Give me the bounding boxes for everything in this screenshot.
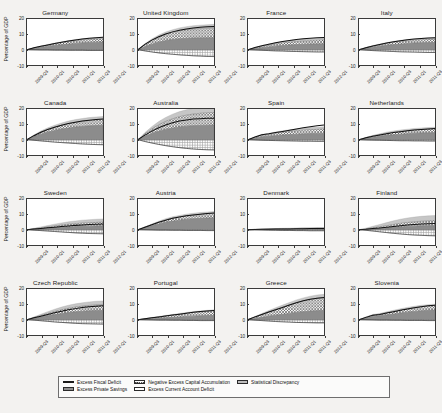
x-tick-mark	[358, 336, 359, 338]
y-tick-mark	[26, 320, 28, 321]
x-tick-mark	[373, 246, 374, 248]
y-tick-mark	[247, 18, 249, 19]
legend-label: Excess Private Savings	[77, 387, 127, 392]
x-tick-label: 2010-Q1	[270, 339, 285, 354]
x-tick-label: 2009-Q3	[144, 69, 159, 84]
legend-label: Statistical Discrepancy	[251, 380, 299, 385]
x-tick-mark	[373, 336, 374, 338]
x-tick-label: 2011-Q1	[412, 339, 427, 354]
x-tick-label: 2010-Q1	[381, 69, 396, 84]
y-tick-label: 10	[240, 32, 245, 37]
panel-title: Australia	[111, 99, 222, 106]
y-tick-mark	[26, 288, 28, 289]
x-tick-mark	[247, 66, 248, 68]
y-tick-label: -10	[349, 154, 356, 159]
x-tick-label: 2010-Q1	[160, 159, 175, 174]
y-tick-mark	[358, 320, 360, 321]
panel-sweden: SwedenPercentage of GDP 20100-102009-Q32…	[0, 188, 111, 278]
axes	[358, 288, 436, 336]
legend-item[interactable]: Statistical Discrepancy	[237, 380, 299, 385]
legend-item[interactable]: Excess Current Account Deficit	[134, 387, 230, 392]
x-tick-mark	[137, 336, 138, 338]
y-tick-mark	[247, 34, 249, 35]
y-tick-label: 20	[19, 106, 24, 111]
y-tick-mark	[358, 304, 360, 305]
y-tick-label: -10	[17, 334, 24, 339]
y-tick-mark	[247, 124, 249, 125]
plot-area: 20100-10	[137, 108, 215, 156]
x-tick-label: 2010-Q3	[65, 339, 80, 354]
y-tick-mark	[26, 230, 28, 231]
x-axis-ticks: 2009-Q32010-Q12010-Q32011-Q12011-Q32012-…	[26, 246, 104, 276]
y-tick-mark	[137, 140, 139, 141]
panel-title: Sweden	[0, 189, 111, 196]
panel-grid: GermanyPercentage of GDP 20100-102009-Q3…	[0, 8, 442, 368]
x-tick-label: 2011-Q3	[428, 339, 442, 354]
x-tick-mark	[404, 246, 405, 248]
y-tick-mark	[358, 34, 360, 35]
x-tick-label: 2010-Q1	[49, 69, 64, 84]
x-tick-mark	[294, 156, 295, 158]
legend-column: Statistical Discrepancy	[237, 380, 299, 385]
x-tick-label: 2011-Q3	[428, 249, 442, 264]
y-tick-label: 20	[350, 286, 355, 291]
x-tick-mark	[278, 246, 279, 248]
x-tick-mark	[152, 336, 153, 338]
y-tick-label: 0	[21, 138, 24, 143]
y-tick-mark	[247, 198, 249, 199]
y-tick-label: 0	[132, 48, 135, 53]
x-tick-label: 2011-Q3	[96, 159, 111, 174]
area-current-account-deficit	[248, 320, 324, 323]
panel-title: France	[221, 9, 332, 16]
legend-column: Excess Fiscal DeficitExcess Private Savi…	[63, 380, 127, 392]
y-tick-label: -10	[238, 334, 245, 339]
y-tick-mark	[247, 288, 249, 289]
legend-item[interactable]: Excess Fiscal Deficit	[63, 380, 127, 385]
plot-area: 20100-10	[358, 108, 436, 156]
y-tick-mark	[137, 108, 139, 109]
x-tick-label: 2011-Q1	[302, 249, 317, 264]
legend-label: Excess Current Account Deficit	[148, 387, 214, 392]
y-tick-label: 20	[19, 196, 24, 201]
x-tick-label: 2009-Q3	[144, 159, 159, 174]
y-tick-label: 0	[353, 138, 356, 143]
y-tick-label: 10	[240, 212, 245, 217]
plot-area: 20100-10	[247, 18, 325, 66]
x-tick-mark	[104, 336, 105, 338]
y-axis-label: Percentage of GDP	[3, 11, 9, 67]
x-tick-mark	[309, 66, 310, 68]
y-tick-label: 20	[240, 106, 245, 111]
legend-item[interactable]: Excess Private Savings	[63, 387, 127, 392]
y-tick-label: 20	[240, 286, 245, 291]
y-tick-label: 0	[353, 228, 356, 233]
y-tick-mark	[247, 214, 249, 215]
panel-austria: Austria 20100-102009-Q32010-Q12010-Q3201…	[111, 188, 222, 278]
y-tick-label: 20	[350, 106, 355, 111]
x-tick-mark	[168, 336, 169, 338]
y-tick-label: 10	[129, 302, 134, 307]
x-tick-label: 2011-Q3	[96, 339, 111, 354]
x-tick-label: 2010-Q3	[397, 159, 412, 174]
x-tick-mark	[57, 336, 58, 338]
x-tick-mark	[309, 156, 310, 158]
y-tick-label: -10	[17, 244, 24, 249]
panel-title: Finland	[332, 189, 442, 196]
panel-czech-republic: Czech RepublicPercentage of GDP 20100-10…	[0, 278, 111, 368]
x-tick-mark	[199, 336, 200, 338]
y-tick-label: -10	[128, 244, 135, 249]
y-tick-label: 10	[240, 302, 245, 307]
y-tick-label: -10	[17, 64, 24, 69]
x-tick-label: 2009-Q3	[255, 159, 270, 174]
x-tick-label: 2011-Q3	[317, 339, 332, 354]
y-tick-label: 20	[350, 196, 355, 201]
y-tick-label: 20	[19, 16, 24, 21]
axes	[137, 288, 215, 336]
x-tick-mark	[26, 66, 27, 68]
panel-spain: Spain 20100-102009-Q32010-Q12010-Q32011-…	[221, 98, 332, 188]
y-tick-label: 10	[129, 212, 134, 217]
x-tick-mark	[325, 246, 326, 248]
x-axis-ticks: 2009-Q32010-Q12010-Q32011-Q12011-Q32012-…	[26, 66, 104, 96]
x-tick-label: 2011-Q3	[207, 339, 222, 354]
x-tick-label: 2009-Q3	[365, 339, 380, 354]
legend-item[interactable]: Negative Excess Capital Accumulation	[134, 380, 230, 385]
